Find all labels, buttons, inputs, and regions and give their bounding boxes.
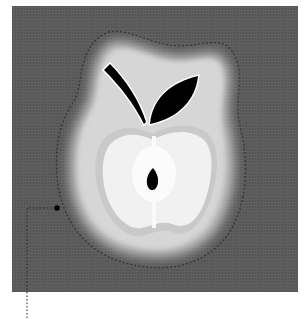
callout-leader [0, 0, 306, 319]
callout-dot [54, 205, 60, 211]
